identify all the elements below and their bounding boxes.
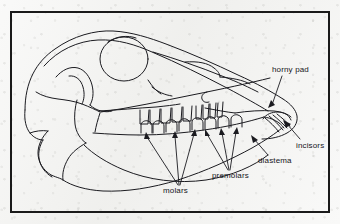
arrowhead-premolar-b xyxy=(219,128,225,135)
arrowhead-molar-a xyxy=(144,132,150,139)
leader-line-premolar-b xyxy=(222,133,229,170)
label-molars: molars xyxy=(163,187,188,195)
horny-pad-surface xyxy=(235,111,291,117)
lower-molar-1 xyxy=(141,121,152,133)
leader-incisors xyxy=(283,120,300,139)
leader-horny-pad xyxy=(268,76,282,108)
upper-molar-1 xyxy=(140,110,149,124)
upper-premolar-3 xyxy=(210,103,216,118)
leader-line-premolar-c xyxy=(230,132,236,170)
jaw-angle-outline xyxy=(38,131,51,175)
arrowhead-premolar-a xyxy=(205,129,210,136)
upper-molar-3 xyxy=(161,108,171,123)
mandible-ramus-front xyxy=(75,100,86,143)
leader-line-molar-a xyxy=(147,137,178,185)
upper-premolar-1 xyxy=(196,105,202,119)
occipital-outline xyxy=(25,110,43,140)
leader-line-horny-pad xyxy=(272,76,282,105)
temporal-fossa-line xyxy=(36,92,100,112)
arrowhead-premolar-c xyxy=(233,127,239,134)
incisor-1 xyxy=(265,118,279,132)
label-diastema: diastema xyxy=(258,157,292,165)
mandible-angle-back xyxy=(63,143,86,180)
label-horny-pad: horny pad xyxy=(272,66,309,74)
frontal-ridge-line xyxy=(44,40,268,111)
label-premolars: premolars xyxy=(212,172,249,180)
leader-line-diastema xyxy=(254,139,268,155)
upper-cheek-teeth xyxy=(140,102,223,124)
leader-line-molar-b xyxy=(175,136,179,185)
label-incisors: incisors xyxy=(296,142,324,150)
nasal-bone-upper xyxy=(153,52,258,92)
mandible-inner-line xyxy=(95,113,100,132)
occipital-plate-line xyxy=(30,131,48,133)
jaw-angle-tip xyxy=(51,175,63,180)
lower-premolar-2 xyxy=(205,117,216,129)
infraorbital-foramen xyxy=(202,92,209,102)
figure-container: horny pad incisors diastema premolars mo… xyxy=(0,0,340,224)
upper-premolar-4 xyxy=(217,102,223,117)
lower-molar-2 xyxy=(153,121,164,133)
premaxilla-front-outline xyxy=(262,99,297,139)
zygomatic-arch-inner xyxy=(69,76,84,104)
occipital-condyle-outline xyxy=(39,140,52,177)
arrowhead-horny-pad xyxy=(268,100,275,108)
leader-diastema xyxy=(251,135,268,155)
lower-premolar-1 xyxy=(192,118,203,130)
palate-line xyxy=(101,78,270,112)
eye-socket-circle xyxy=(100,37,148,81)
